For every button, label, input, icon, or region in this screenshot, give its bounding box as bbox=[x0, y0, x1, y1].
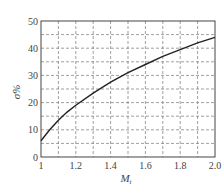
y-tick-label: 20 bbox=[28, 97, 38, 108]
y-tick-label: 40 bbox=[28, 43, 38, 54]
y-axis-label: σ% bbox=[10, 85, 22, 100]
x-tick-label: 1.2 bbox=[70, 160, 83, 171]
y-tick-label: 50 bbox=[28, 16, 38, 27]
x-tick-label: 2.0 bbox=[209, 160, 222, 171]
chart: 11.21.41.61.82.0 01020304050 σ% Mt bbox=[0, 0, 224, 190]
grid-lines bbox=[41, 21, 215, 157]
y-tick-label: 30 bbox=[28, 70, 38, 81]
x-tick-label: 1.4 bbox=[104, 160, 117, 171]
y-tick-labels: 01020304050 bbox=[28, 16, 38, 163]
x-tick-labels: 11.21.41.61.82.0 bbox=[39, 160, 222, 171]
y-tick-label: 10 bbox=[28, 124, 38, 135]
x-tick-label: 1.8 bbox=[174, 160, 187, 171]
x-tick-label: 1 bbox=[39, 160, 44, 171]
x-axis-label: Mt bbox=[119, 172, 132, 186]
x-tick-label: 1.6 bbox=[139, 160, 152, 171]
y-tick-label: 0 bbox=[33, 152, 38, 163]
